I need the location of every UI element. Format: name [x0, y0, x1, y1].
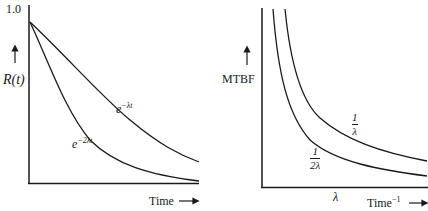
curve-label-exp-2lambda-t: e−2λt: [72, 137, 92, 150]
left-x-axis-label: Time: [149, 195, 174, 207]
left-y-tick-1: 1.0: [6, 3, 21, 15]
chart-graphics: [0, 0, 428, 211]
curve-label-one-over-lambda: 1λ: [352, 112, 358, 137]
curve-label-exp-lambda-t: e−λt: [116, 102, 132, 115]
right-x-tick-lambda: λ: [333, 191, 338, 203]
curve-one-over-2lambda: [273, 9, 427, 176]
curve-exp-lambda-t: [30, 22, 199, 162]
curve-label-one-over-2lambda: 12λ: [310, 146, 320, 171]
curve-one-over-lambda: [285, 9, 427, 161]
curve-exp-2lambda-t: [30, 22, 199, 181]
right-x-axis-label: Time−1: [367, 196, 400, 209]
right-y-axis-label: MTBF: [222, 73, 255, 85]
left-y-axis-label: R(t): [3, 73, 25, 87]
